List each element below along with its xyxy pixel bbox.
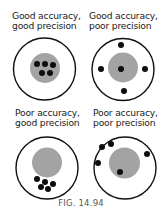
shot-dot [142,66,148,72]
target-poor-acc-good-prec [16,137,78,199]
label-line2: poor precision [93,118,158,128]
panel-label-good-accuracy-poor-precision: Good accuracy, poor precision [89,11,158,30]
shot-dot [50,181,56,187]
target-good-acc-good-prec [14,38,76,100]
bullseye [32,148,62,178]
shot-dot [42,179,48,185]
shot-dot [34,176,40,182]
bullseye [30,53,60,83]
panel-label-poor-accuracy-poor-precision: Poor accuracy, poor precision [93,108,158,127]
accuracy-precision-diagram [0,0,162,212]
shot-dot [95,160,101,166]
bullseye [109,148,140,179]
shot-dot [50,62,56,68]
target-good-acc-poor-prec [92,39,154,101]
shot-dot [117,169,123,175]
shot-dot [98,66,104,72]
shot-dot [121,88,127,94]
label-line2: good precision [12,21,81,31]
shot-dot [99,144,105,150]
shot-dot [34,61,40,67]
panel-label-good-accuracy-good-precision: Good accuracy, good precision [12,11,81,30]
target-poor-acc-poor-prec [94,137,156,199]
label-line2: good precision [15,118,80,128]
shot-dot [38,184,44,190]
shot-dot [45,186,51,192]
shot-dot [108,141,114,147]
shot-dot [47,70,53,76]
shot-dot [118,42,124,48]
shot-dot [144,151,150,157]
shot-dot [39,70,45,76]
panel-label-poor-accuracy-good-precision: Poor accuracy, good precision [15,108,80,127]
label-line2: poor precision [89,21,158,31]
figure-caption: FIG. 14.94 [0,198,162,208]
shot-dot [42,61,48,67]
shot-dot [118,66,124,72]
